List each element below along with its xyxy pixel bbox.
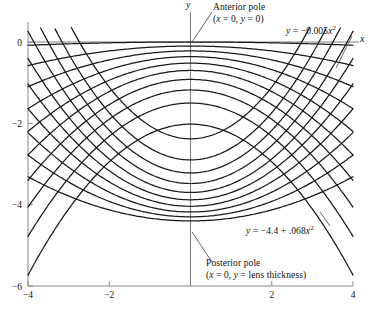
svg-text:2: 2 <box>269 290 274 300</box>
posterior-pole-annotation: Posterior pole (x = 0, y = lens thicknes… <box>206 258 306 281</box>
anterior-pole-leader <box>192 12 212 42</box>
svg-text:−6: −6 <box>12 282 22 292</box>
coordinate-axes <box>28 12 359 286</box>
svg-text:4: 4 <box>351 290 356 300</box>
y-axis-label: y <box>186 0 190 10</box>
x-axis-label: x <box>360 33 364 44</box>
posterior-pole-line1: Posterior pole <box>206 258 306 270</box>
svg-text:−2: −2 <box>12 119 22 129</box>
lens-parabola-figure: 0−2−4−6−4−224 y x Anterior pole (x = 0, … <box>0 0 380 309</box>
posterior-equation-leader <box>320 212 330 226</box>
svg-text:−4: −4 <box>23 290 33 300</box>
svg-text:−2: −2 <box>104 290 114 300</box>
posterior-pole-line2: (x = 0, y = lens thickness) <box>206 270 306 282</box>
anterior-pole-line2: (x = 0, y = 0) <box>213 14 265 26</box>
plot-canvas: 0−2−4−6−4−224 <box>0 0 380 309</box>
exponent-two: 2 <box>310 224 314 231</box>
anterior-equation-annotation: y = −0.005x2 <box>286 22 336 38</box>
anterior-pole-annotation: Anterior pole (x = 0, y = 0) <box>213 2 265 25</box>
posterior-equation-annotation: y = −4.4 + .068x2 <box>246 222 314 238</box>
exponent-two: 2 <box>332 24 336 31</box>
anterior-pole-line1: Anterior pole <box>213 2 265 14</box>
svg-text:0: 0 <box>17 38 22 48</box>
svg-text:−4: −4 <box>12 200 22 210</box>
